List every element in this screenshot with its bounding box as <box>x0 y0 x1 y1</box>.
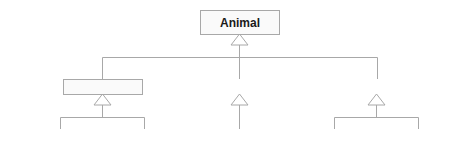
class-box-animal: Animal <box>200 10 280 35</box>
inheritance-arrow-bird-icon <box>231 94 248 105</box>
inheritance-arrow-mammal-icon <box>368 94 385 105</box>
inheritance-arrow-reptile-icon <box>94 94 111 105</box>
class-label: Animal <box>220 16 260 30</box>
inheritance-arrow-animal-icon <box>231 34 248 45</box>
